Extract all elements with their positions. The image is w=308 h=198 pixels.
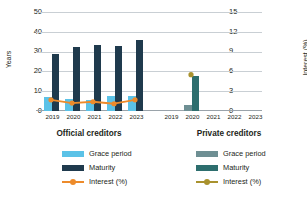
legend-item-private-1[interactable]: Maturity — [196, 161, 266, 175]
legend-bar-swatch-icon — [196, 165, 218, 171]
interest-marker — [111, 101, 116, 106]
legend-label: Maturity — [89, 164, 115, 171]
interest-marker — [132, 97, 137, 102]
y-axis-left-title: Years — [5, 38, 12, 82]
x-tick-official-2023: 2023 — [125, 114, 149, 120]
legend-official: Grace periodMaturityInterest (%) — [62, 147, 132, 189]
legend-private: Grace periodMaturityInterest (%) — [196, 147, 266, 189]
legend-label: Interest (%) — [89, 178, 127, 185]
interest-line-layer — [36, 12, 262, 111]
plot-area — [36, 12, 262, 111]
group-caption-private: Private creditors — [166, 129, 292, 138]
x-tick-private-2023: 2023 — [244, 114, 268, 120]
legend-label: Grace period — [223, 150, 266, 157]
interest-marker — [69, 100, 74, 105]
legend-line-marker-icon — [196, 179, 218, 185]
legend-item-official-2[interactable]: Interest (%) — [62, 175, 132, 189]
interest-marker — [188, 72, 193, 77]
legend-label: Interest (%) — [223, 178, 261, 185]
legend-label: Grace period — [89, 150, 132, 157]
legend-item-official-0[interactable]: Grace period — [62, 147, 132, 161]
legend-bar-swatch-icon — [62, 165, 84, 171]
legend-item-official-1[interactable]: Maturity — [62, 161, 132, 175]
legend-bar-swatch-icon — [196, 151, 218, 157]
interest-marker — [48, 97, 53, 102]
legend-item-private-2[interactable]: Interest (%) — [196, 175, 266, 189]
chart-root: Years Interest (%) 50 40 30 20 10 0 15 1… — [0, 0, 307, 198]
y-axis-right-title: Interest (%) — [302, 32, 308, 84]
legend-line-marker-icon — [62, 179, 84, 185]
legend-label: Maturity — [223, 164, 249, 171]
group-caption-official: Official creditors — [26, 129, 152, 138]
interest-marker — [90, 99, 95, 104]
legend-bar-swatch-icon — [62, 151, 84, 157]
legend-item-private-0[interactable]: Grace period — [196, 147, 266, 161]
